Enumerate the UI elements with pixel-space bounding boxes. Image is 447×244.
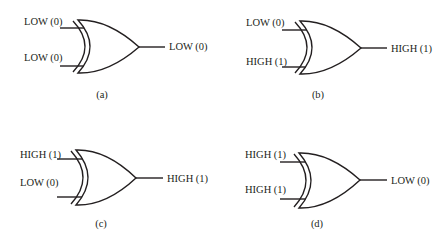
xor-gate-body [78, 20, 139, 73]
input-b-label: LOW (0) [20, 177, 59, 189]
input-b-label: HIGH (1) [246, 56, 288, 68]
input-a-label: HIGH (1) [245, 149, 287, 161]
input-a-label: LOW (0) [246, 17, 285, 29]
panel-caption: (c) [95, 218, 107, 230]
panel-c: HIGH (1) LOW (0) HIGH (1) (c) [20, 149, 209, 230]
panel-caption: (d) [311, 218, 324, 230]
input-b-label: HIGH (1) [245, 184, 287, 196]
input-a-label: LOW (0) [24, 16, 63, 28]
xor-truth-table-figure: LOW (0) LOW (0) LOW (0) (a) LOW (0) HIGH… [0, 0, 447, 244]
output-label: LOW (0) [169, 41, 208, 53]
input-b-label: LOW (0) [24, 52, 63, 64]
panel-d: HIGH (1) HIGH (1) LOW (0) (d) [245, 149, 430, 230]
panel-caption: (b) [312, 89, 325, 101]
output-label: HIGH (1) [391, 43, 433, 55]
xor-gate-diagram: LOW (0) LOW (0) LOW (0) (a) LOW (0) HIGH… [0, 0, 447, 244]
input-a-label: HIGH (1) [20, 149, 62, 161]
xor-gate-body [300, 21, 361, 74]
panel-a: LOW (0) LOW (0) LOW (0) (a) [24, 16, 208, 101]
xor-gate-body [76, 150, 136, 205]
panel-caption: (a) [96, 89, 108, 101]
xor-gate-body [299, 153, 360, 208]
panel-b: LOW (0) HIGH (1) HIGH (1) (b) [246, 17, 433, 101]
output-label: HIGH (1) [167, 173, 209, 185]
output-label: LOW (0) [391, 175, 430, 187]
